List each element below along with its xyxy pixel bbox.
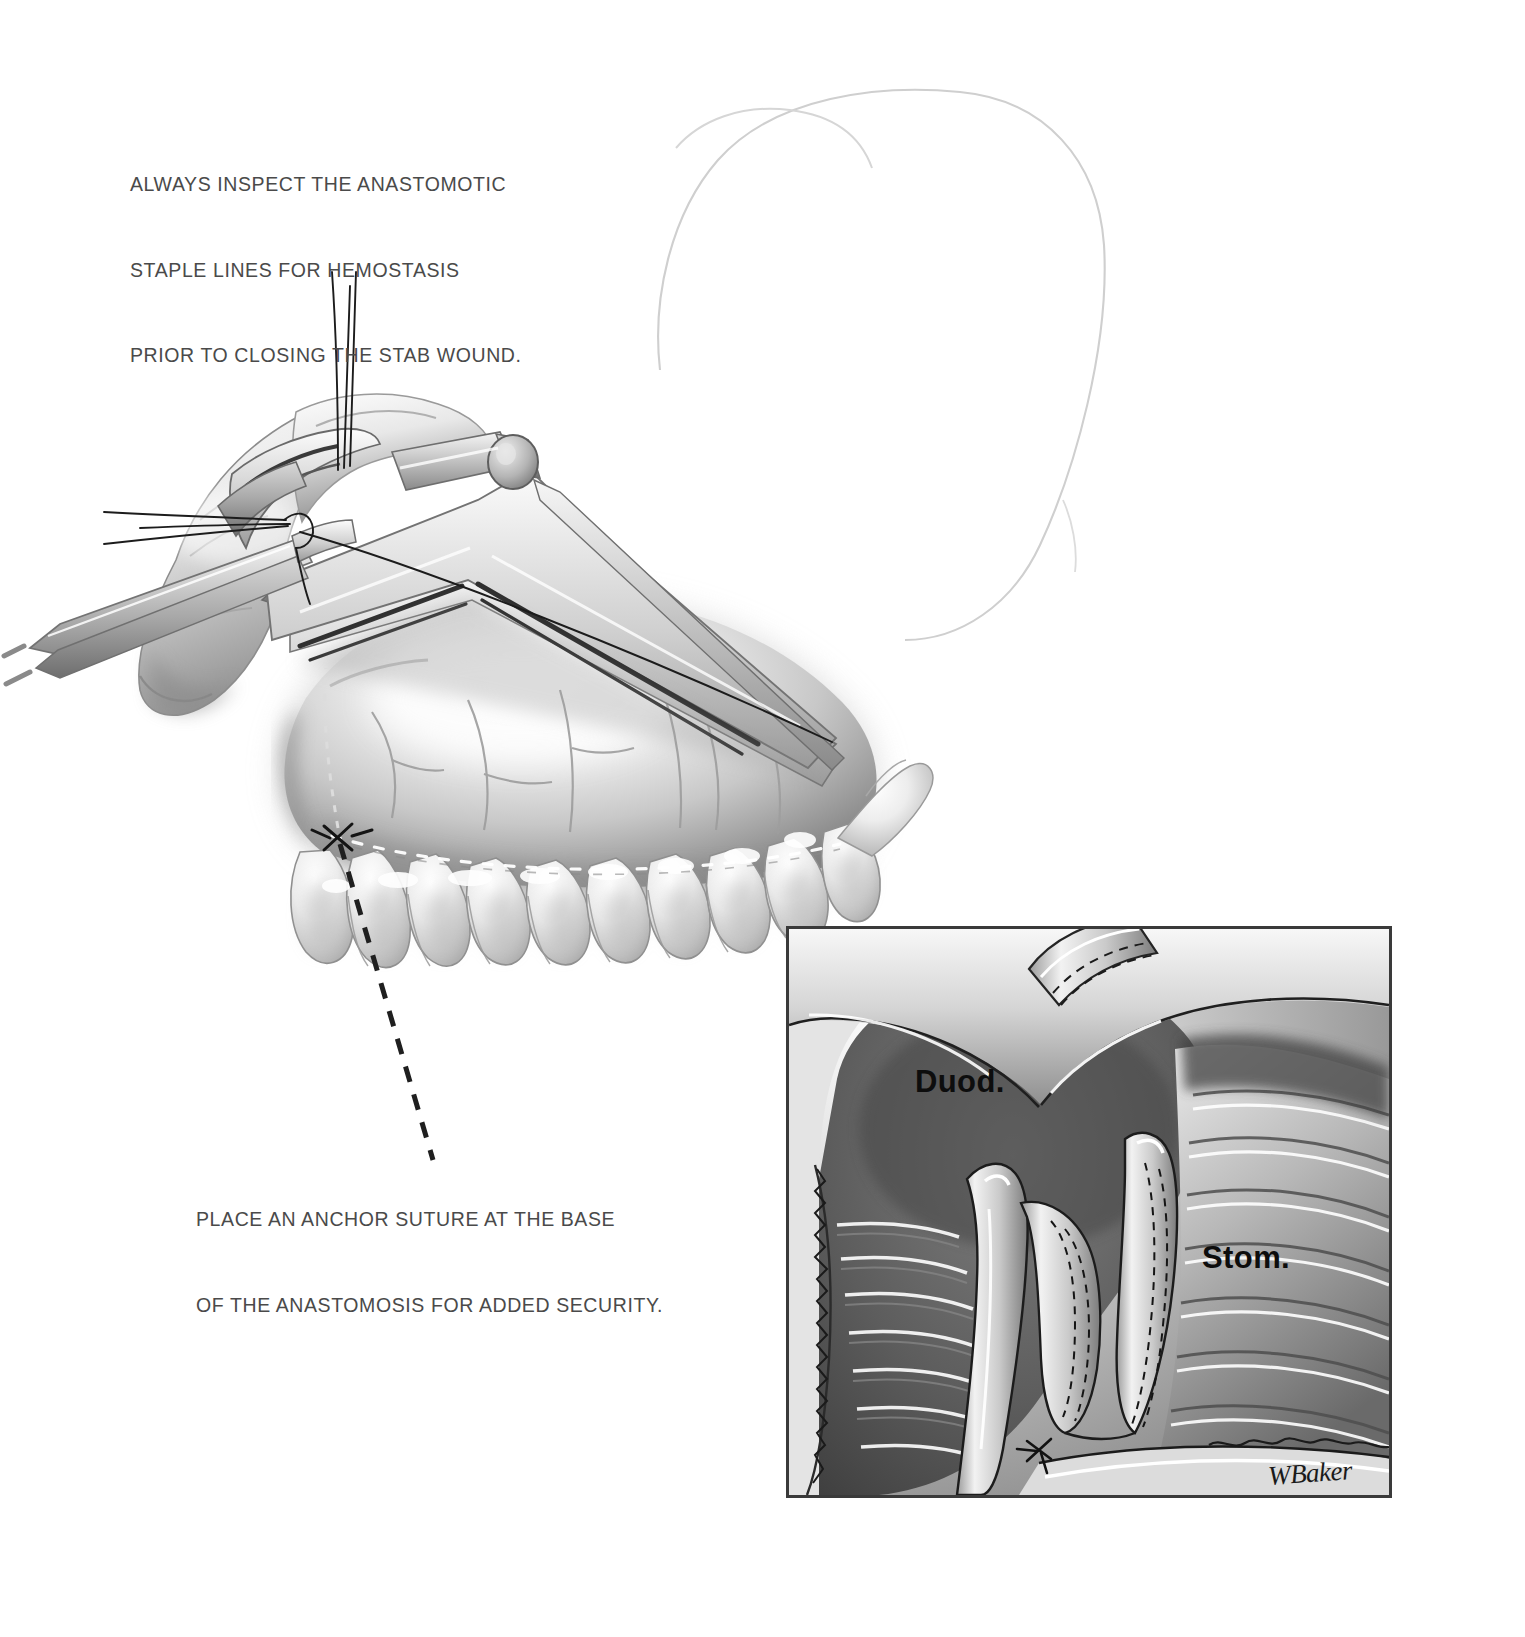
caption-line: ALWAYS INSPECT THE ANASTOMOTIC xyxy=(130,170,522,199)
caption-line: STAPLE LINES FOR HEMOSTASIS xyxy=(130,256,522,285)
stapler-anvil-knob xyxy=(488,435,538,489)
caption-line: OF THE ANASTOMOSIS FOR ADDED SECURITY. xyxy=(196,1291,663,1320)
cutaway-detail-panel xyxy=(786,926,1392,1498)
hemostasis-instruction-caption: ALWAYS INSPECT THE ANASTOMOTIC STAPLE LI… xyxy=(130,113,522,427)
faint-liver-outline xyxy=(658,90,1105,640)
anchor-suture-instruction-caption: PLACE AN ANCHOR SUTURE AT THE BASE OF TH… xyxy=(196,1148,663,1376)
artist-signature: WBaker xyxy=(1267,1455,1353,1492)
illustration-page: ALWAYS INSPECT THE ANASTOMOTIC STAPLE LI… xyxy=(0,0,1525,1637)
inset-illustration xyxy=(789,929,1389,1495)
caption-line: PLACE AN ANCHOR SUTURE AT THE BASE xyxy=(196,1205,663,1234)
caption-line: PRIOR TO CLOSING THE STAB WOUND. xyxy=(130,341,522,370)
inset-label-stomach: Stom. xyxy=(1202,1240,1290,1276)
inset-label-duodenum: Duod. xyxy=(915,1064,1005,1100)
